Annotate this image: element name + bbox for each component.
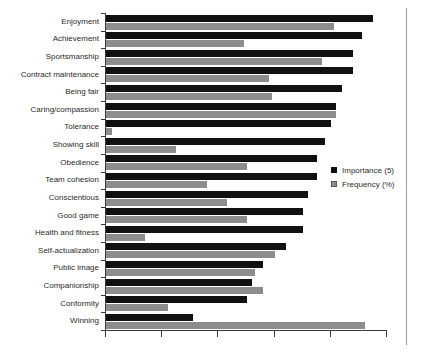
y-axis-tick <box>101 101 105 102</box>
bar-frequency <box>106 216 247 223</box>
bar-importance <box>106 120 331 127</box>
category-label: Caring/compassion <box>0 105 99 114</box>
grouped-horizontal-bar-chart: EnjoymentAchievementSportsmanshipContrac… <box>0 0 422 353</box>
gray-square-icon <box>331 181 337 187</box>
bar-importance <box>106 67 353 74</box>
bar-group <box>106 15 406 33</box>
bar-group <box>106 32 406 50</box>
category-axis-labels: EnjoymentAchievementSportsmanshipContrac… <box>0 13 103 330</box>
bar-group <box>106 191 406 209</box>
x-axis-tick <box>217 330 218 337</box>
y-axis-tick <box>101 277 105 278</box>
bar-group <box>106 138 406 156</box>
legend-label-importance: Importance (5) <box>342 166 394 175</box>
category-label: Good game <box>0 211 99 220</box>
bar-importance <box>106 15 373 22</box>
bar-importance <box>106 138 325 145</box>
chart-frame-right-border <box>406 8 407 345</box>
category-label: Sportsmanship <box>0 52 99 61</box>
category-label: Winning <box>0 316 99 325</box>
category-label: Enjoyment <box>0 17 99 26</box>
y-axis-tick <box>101 260 105 261</box>
y-axis-tick <box>101 189 105 190</box>
y-axis-tick <box>101 172 105 173</box>
bar-frequency <box>106 163 247 170</box>
category-label: Team cohesion <box>0 175 99 184</box>
y-axis-tick <box>101 83 105 84</box>
bar-frequency <box>106 111 336 118</box>
bar-frequency <box>106 234 145 241</box>
y-axis-tick <box>101 312 105 313</box>
category-label: Obedience <box>0 158 99 167</box>
bar-group <box>106 261 406 279</box>
bar-group <box>106 208 406 226</box>
category-label: Achievement <box>0 34 99 43</box>
bar-frequency <box>106 269 255 276</box>
bar-group <box>106 296 406 314</box>
bar-importance <box>106 191 308 198</box>
y-axis-tick <box>101 207 105 208</box>
legend-label-frequency: Frequency (%) <box>342 180 394 189</box>
bar-group <box>106 226 406 244</box>
category-label: Self-actualization <box>0 246 99 255</box>
bar-group <box>106 243 406 261</box>
y-axis-tick <box>101 154 105 155</box>
bar-importance <box>106 85 342 92</box>
bar-frequency <box>106 304 168 311</box>
bar-group <box>106 50 406 68</box>
category-label: Conscientious <box>0 193 99 202</box>
bar-frequency <box>106 287 263 294</box>
bar-group <box>106 85 406 103</box>
y-axis-tick <box>101 136 105 137</box>
bar-frequency <box>106 23 334 30</box>
x-axis-tick <box>161 330 162 337</box>
bar-importance <box>106 226 303 233</box>
bar-frequency <box>106 40 244 47</box>
bar-importance <box>106 50 353 57</box>
bar-frequency <box>106 146 176 153</box>
y-axis-tick <box>101 119 105 120</box>
category-label: Health and fitness <box>0 228 99 237</box>
bar-frequency <box>106 322 365 329</box>
bar-group <box>106 314 406 332</box>
y-axis-tick <box>101 48 105 49</box>
y-axis-tick <box>101 242 105 243</box>
category-label: Showing skill <box>0 140 99 149</box>
bar-importance <box>106 279 252 286</box>
category-label: Conformity <box>0 299 99 308</box>
bar-frequency <box>106 251 275 258</box>
y-axis-tick <box>101 66 105 67</box>
legend-item-frequency: Frequency (%) <box>331 177 403 191</box>
bar-frequency <box>106 58 322 65</box>
x-axis-tick <box>274 330 275 337</box>
category-label: Public image <box>0 263 99 272</box>
bar-group <box>106 67 406 85</box>
bar-importance <box>106 208 303 215</box>
y-axis-tick <box>101 224 105 225</box>
bar-frequency <box>106 199 227 206</box>
bar-frequency <box>106 181 207 188</box>
x-axis-tick <box>330 330 331 337</box>
bar-importance <box>106 173 317 180</box>
black-square-icon <box>331 167 337 173</box>
category-label: Being fair <box>0 87 99 96</box>
bar-group <box>106 103 406 121</box>
bar-importance <box>106 243 286 250</box>
x-axis-tick <box>386 330 387 337</box>
category-label: Tolerance <box>0 122 99 131</box>
chart-legend: Importance (5) Frequency (%) <box>331 163 403 191</box>
bar-importance <box>106 296 247 303</box>
bar-frequency <box>106 128 112 135</box>
bar-frequency <box>106 93 272 100</box>
bar-importance <box>106 155 317 162</box>
legend-item-importance: Importance (5) <box>331 163 403 177</box>
bar-importance <box>106 261 263 268</box>
bar-group <box>106 279 406 297</box>
y-axis-tick <box>101 31 105 32</box>
y-axis-tick <box>101 13 105 14</box>
bar-frequency <box>106 75 269 82</box>
bar-group <box>106 120 406 138</box>
bar-importance <box>106 103 336 110</box>
x-axis-tick <box>105 330 106 337</box>
y-axis-tick <box>101 295 105 296</box>
